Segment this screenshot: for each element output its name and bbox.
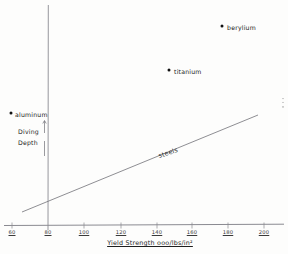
steels-trend-line bbox=[22, 115, 258, 212]
x-axis-line bbox=[4, 224, 284, 225]
x-tick-label: 60 bbox=[8, 229, 15, 235]
x-tick-label: 80 bbox=[44, 229, 51, 235]
edge-smudge-artifact bbox=[281, 97, 285, 110]
x-axis-title: Yield Strength ooo/lbs/in² bbox=[107, 239, 193, 247]
x-tick-label: 120 bbox=[116, 229, 127, 235]
x-tick-label: 100 bbox=[79, 229, 90, 235]
x-tick-label: 160 bbox=[187, 229, 198, 235]
data-point-berylium-marker bbox=[221, 25, 224, 28]
diving-depth-note-line1: Diving bbox=[18, 128, 39, 137]
x-tick-label: 180 bbox=[223, 229, 234, 235]
data-point-aluminum-label: aluminum bbox=[15, 111, 48, 118]
data-point-titanium-marker bbox=[168, 69, 171, 72]
diving-depth-note-line2: Depth bbox=[18, 139, 38, 148]
diving-depth-marks bbox=[43, 121, 46, 157]
x-tick-label: 140 bbox=[152, 229, 163, 235]
chart-canvas: 60 80 100 120 140 160 180 200 Yield Stre… bbox=[0, 0, 288, 254]
chart-svg bbox=[0, 0, 288, 254]
x-tick-label: 200 bbox=[259, 229, 270, 235]
data-point-titanium-label: titanium bbox=[174, 68, 202, 75]
data-point-berylium-label: berylium bbox=[227, 24, 256, 31]
data-point-aluminum-marker bbox=[10, 112, 13, 115]
